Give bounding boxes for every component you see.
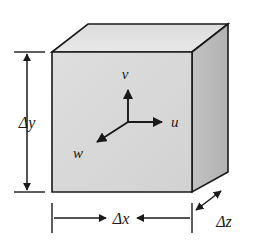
v-axis-label: v [122,66,129,82]
w-axis-label: w [73,145,83,161]
cube-body [52,24,228,192]
delta-x-dimension: Δx [52,203,192,233]
delta-z-measure-line [196,191,221,210]
u-axis-label: u [171,114,179,130]
delta-y-dimension: Δy [14,52,45,192]
delta-y-label: Δy [18,114,36,132]
delta-x-label: Δx [112,210,130,227]
delta-z-dimension: Δz [196,191,233,230]
cube-diagram-figure: v u w Δy Δx Δz [0,0,255,241]
delta-z-label: Δz [215,213,232,230]
cube-right-face [192,24,228,192]
diagram-canvas: v u w Δy Δx Δz [0,0,255,241]
